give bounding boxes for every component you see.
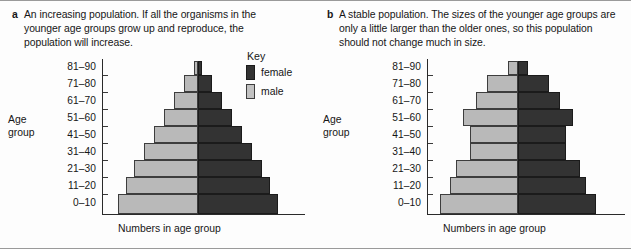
chart-b-bar-female-21-30	[518, 160, 580, 177]
chart-b-bar-female-81-90	[518, 61, 528, 75]
chart-b-tick-4	[428, 143, 433, 144]
chart-a-ylabel-81-90: 81–90	[38, 61, 96, 72]
chart-a-ylabel-21-30: 21–30	[38, 163, 96, 174]
chart-a-bar-female-81-90	[198, 61, 202, 75]
chart-b-ylabel-41-50: 41–50	[363, 129, 421, 140]
chart-b-bar-female-11-20	[518, 177, 586, 194]
panel-b: b A stable population. The sizes of the …	[315, 1, 631, 249]
chart-b-bar-female-51-60	[518, 109, 573, 126]
legend-item-male[interactable]: male	[246, 84, 292, 99]
legend: Key female male	[246, 50, 292, 103]
chart-a-tick-4	[103, 143, 108, 144]
chart-b-bar-male-71-80	[487, 75, 518, 92]
chart-b-bar-female-61-70	[518, 92, 560, 109]
chart-b-y-axis-title-line2: group	[323, 126, 350, 139]
chart-b-y-axis-title: Age group	[323, 113, 350, 139]
chart-a-tick-1	[103, 92, 108, 93]
chart-a-bar-female-31-40	[198, 143, 252, 160]
chart-a-y-axis-title-line2: group	[8, 126, 35, 139]
chart-a-bar-female-41-50	[198, 126, 242, 143]
chart-b-ylabel-31-40: 31–40	[363, 146, 421, 157]
chart-a-bar-male-61-70	[174, 92, 198, 109]
chart-a-ylabel-41-50: 41–50	[38, 129, 96, 140]
chart-a-tick-6	[103, 177, 108, 178]
chart-b-bar-male-11-20	[450, 177, 518, 194]
legend-title: Key	[247, 50, 292, 62]
chart-a-ylabel-11-20: 11–20	[38, 180, 96, 191]
chart-a-bar-male-0-10	[118, 194, 198, 214]
chart-b-ylabel-0-10: 0–10	[363, 197, 421, 208]
chart-b-tick-2	[428, 109, 433, 110]
chart-a-tick-0	[103, 75, 108, 76]
chart-a-tick-5	[103, 160, 108, 161]
chart-a-x-axis-title: Numbers in age group	[118, 223, 221, 234]
legend-label-female: female	[261, 67, 292, 78]
chart-b: Age group 81–90 71–80 61–70 51–60 41–50 …	[315, 1, 631, 249]
chart-a-bar-male-41-50	[154, 126, 198, 143]
chart-b-ylabel-71-80: 71–80	[363, 78, 421, 89]
chart-b-x-axis	[427, 214, 625, 215]
female-swatch-icon	[246, 65, 255, 80]
chart-a-bar-female-71-80	[198, 75, 212, 92]
chart-b-bar-male-41-50	[470, 126, 518, 143]
chart-a-x-axis	[102, 214, 305, 215]
chart-a-ylabel-51-60: 51–60	[38, 112, 96, 123]
chart-a-bar-female-51-60	[198, 109, 232, 126]
chart-b-ylabel-51-60: 51–60	[363, 112, 421, 123]
chart-a-tick-3	[103, 126, 108, 127]
chart-b-y-axis-title-line1: Age	[323, 113, 350, 126]
legend-item-female[interactable]: female	[246, 65, 292, 80]
chart-b-tick-0	[428, 75, 433, 76]
chart-b-bar-female-41-50	[518, 126, 566, 143]
population-pyramid-figure: a An increasing population. If all the o…	[0, 0, 631, 249]
chart-b-bar-male-61-70	[476, 92, 518, 109]
chart-b-tick-6	[428, 177, 433, 178]
chart-a-bar-male-11-20	[126, 177, 198, 194]
chart-b-bar-female-71-80	[518, 75, 549, 92]
chart-a-tick-2	[103, 109, 108, 110]
chart-b-bar-female-0-10	[518, 194, 596, 214]
chart-a-ylabel-31-40: 31–40	[38, 146, 96, 157]
chart-a-y-axis	[102, 59, 103, 214]
chart-a: Age group 81–90 71–80 61–70 51–60 41–50 …	[0, 1, 315, 249]
chart-a-bar-female-21-30	[198, 160, 262, 177]
chart-a-bar-female-0-10	[198, 194, 278, 214]
chart-b-bar-male-81-90	[508, 61, 518, 75]
chart-b-bar-male-0-10	[440, 194, 518, 214]
chart-a-tick-7	[103, 194, 108, 195]
legend-label-male: male	[261, 86, 284, 97]
chart-a-bar-male-51-60	[164, 109, 198, 126]
chart-b-ylabel-21-30: 21–30	[363, 163, 421, 174]
chart-a-bar-female-11-20	[198, 177, 270, 194]
chart-b-y-axis	[427, 59, 428, 214]
chart-b-ylabel-11-20: 11–20	[363, 180, 421, 191]
chart-a-y-axis-title-line1: Age	[8, 113, 35, 126]
chart-b-tick-1	[428, 92, 433, 93]
chart-b-bar-male-51-60	[463, 109, 518, 126]
chart-b-x-axis-title: Numbers in age group	[443, 223, 546, 234]
chart-b-tick-5	[428, 160, 433, 161]
chart-a-ylabel-61-70: 61–70	[38, 95, 96, 106]
chart-a-bar-male-21-30	[134, 160, 198, 177]
chart-a-ylabel-0-10: 0–10	[38, 197, 96, 208]
chart-b-ylabel-61-70: 61–70	[363, 95, 421, 106]
chart-a-y-axis-title: Age group	[8, 113, 35, 139]
chart-b-bar-male-31-40	[470, 143, 518, 160]
chart-b-bar-male-21-30	[456, 160, 518, 177]
chart-a-bar-female-61-70	[198, 92, 222, 109]
male-swatch-icon	[246, 84, 255, 99]
chart-b-bar-female-31-40	[518, 143, 566, 160]
chart-b-tick-7	[428, 194, 433, 195]
chart-b-ylabel-81-90: 81–90	[363, 61, 421, 72]
chart-a-bar-male-71-80	[184, 75, 198, 92]
chart-b-tick-3	[428, 126, 433, 127]
chart-a-ylabel-71-80: 71–80	[38, 78, 96, 89]
chart-a-bar-male-31-40	[144, 143, 198, 160]
panel-a: a An increasing population. If all the o…	[0, 1, 315, 249]
